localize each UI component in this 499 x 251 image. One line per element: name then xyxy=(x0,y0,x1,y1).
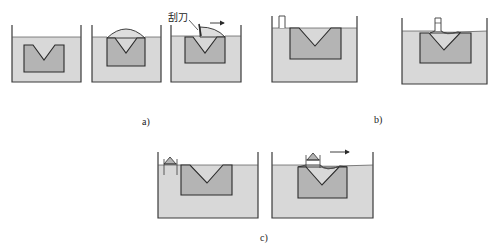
vat-b1 xyxy=(272,16,357,82)
vat-c1 xyxy=(158,152,258,218)
vat-a3: 刮刀 xyxy=(168,11,241,82)
label-leader-line xyxy=(189,20,198,30)
blade-icon xyxy=(199,24,201,36)
vat-c2 xyxy=(272,152,373,218)
nozzle-icon xyxy=(435,18,441,31)
vat-a2 xyxy=(92,25,161,82)
nozzle-icon xyxy=(279,16,285,28)
caption-b: b) xyxy=(374,114,382,126)
resin-bulge xyxy=(107,29,145,38)
vat-a1 xyxy=(12,25,81,82)
panel-a: 刮刀 a) xyxy=(12,11,241,128)
blade-label: 刮刀 xyxy=(168,11,188,23)
panel-b: b) xyxy=(272,16,487,126)
recoating-methods-diagram: 刮刀 a) b) xyxy=(0,0,499,251)
vat-b2 xyxy=(402,18,487,84)
caption-c: c) xyxy=(260,232,268,244)
panel-c: c) xyxy=(158,152,373,244)
caption-a: a) xyxy=(142,116,150,128)
